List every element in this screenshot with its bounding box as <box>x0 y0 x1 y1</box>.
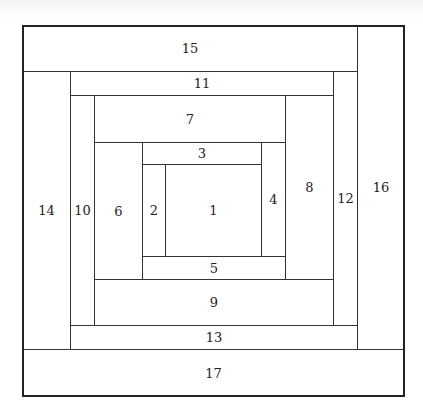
piece-label: 11 <box>194 76 211 91</box>
piece-label: 17 <box>205 366 222 381</box>
piece-label: 3 <box>198 146 206 161</box>
piece-13: 13 <box>70 325 358 350</box>
piece-label: 2 <box>150 203 158 218</box>
piece-11: 11 <box>70 71 334 96</box>
piece-3: 3 <box>142 142 262 165</box>
piece-label: 14 <box>38 203 55 218</box>
piece-label: 13 <box>206 330 223 345</box>
piece-label: 1 <box>209 203 217 218</box>
piece-8: 8 <box>285 95 334 280</box>
piece-6: 6 <box>94 142 143 280</box>
piece-label: 5 <box>210 261 218 276</box>
piece-2: 2 <box>142 164 166 257</box>
piece-15: 15 <box>22 25 358 72</box>
piece-label: 6 <box>114 204 122 219</box>
piece-17: 17 <box>22 349 405 397</box>
piece-4: 4 <box>261 142 286 257</box>
piece-5: 5 <box>142 256 286 280</box>
piece-1: 1 <box>165 164 262 257</box>
piece-label: 9 <box>210 295 218 310</box>
piece-14: 14 <box>22 71 71 350</box>
piece-label: 7 <box>186 112 194 127</box>
piece-12: 12 <box>333 71 358 326</box>
piece-label: 10 <box>74 203 91 218</box>
piece-9: 9 <box>94 279 334 326</box>
piece-label: 8 <box>305 180 313 195</box>
piece-label: 16 <box>373 180 390 195</box>
piece-10: 10 <box>70 95 95 326</box>
piece-label: 4 <box>269 192 277 207</box>
piece-label: 12 <box>337 191 354 206</box>
quilt-diagram: 1 2 3 4 5 6 7 8 9 10 11 12 13 14 15 16 1… <box>0 0 423 416</box>
piece-label: 15 <box>182 41 199 56</box>
piece-7: 7 <box>94 95 286 143</box>
piece-16: 16 <box>357 25 405 350</box>
